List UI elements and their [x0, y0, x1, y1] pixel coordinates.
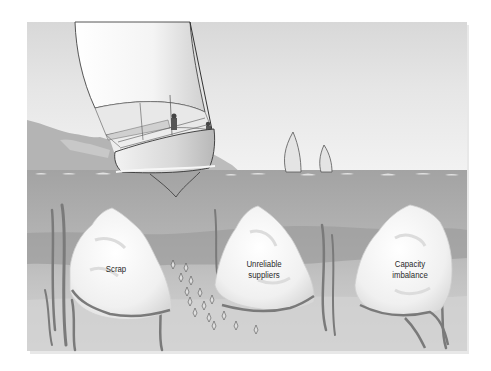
sailboat-rocks-illustration — [0, 0, 491, 371]
rock-label-capacity-imbalance: Capacity imbalance — [384, 259, 436, 281]
rock-label-unreliable-suppliers: Unreliable suppliers — [238, 259, 290, 281]
rock-label-scrap: Scrap — [98, 264, 135, 275]
